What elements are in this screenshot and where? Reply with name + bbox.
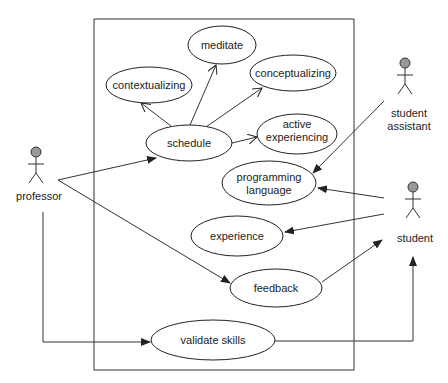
use-case-label: schedule: [167, 137, 211, 149]
use-case-label-line2: experiencing: [266, 131, 328, 143]
edge-feedback-student: [322, 240, 382, 282]
use-case-label: contextualizing: [113, 79, 186, 91]
actor-student[interactable]: student: [397, 182, 433, 244]
edge-schedule-conceptualizing: [206, 88, 262, 127]
edge-professor-validate: [43, 212, 150, 342]
use-case-schedule[interactable]: schedule: [146, 125, 232, 161]
use-case-label: validate skills: [181, 334, 246, 346]
actor-label: professor: [16, 190, 62, 202]
use-case-label-line1: programming: [237, 171, 302, 183]
edge-schedule-contextualizing: [141, 103, 171, 126]
use-case-conceptualizing[interactable]: conceptualizing: [250, 55, 336, 91]
edge-student-experience: [285, 214, 384, 232]
actor-label-line2: assistant: [387, 120, 430, 132]
use-case-label: meditate: [201, 39, 243, 51]
use-case-programming-language[interactable]: programming language: [222, 161, 316, 205]
edge-schedule-meditate: [190, 65, 216, 125]
actor-student-assistant[interactable]: student assistant: [387, 58, 430, 132]
stick-figure-icon: [397, 58, 413, 94]
actor-label: student: [397, 232, 433, 244]
use-case-diagram: meditate contextualizing conceptualizing…: [0, 0, 448, 383]
use-case-label: conceptualizing: [255, 67, 331, 79]
use-case-label-line2: language: [246, 184, 291, 196]
use-case-label: experience: [210, 230, 264, 242]
use-case-label: feedback: [254, 282, 299, 294]
use-case-feedback[interactable]: feedback: [230, 269, 322, 307]
use-case-meditate[interactable]: meditate: [188, 26, 256, 64]
actor-label-line1: student: [391, 107, 427, 119]
use-case-active-experiencing[interactable]: active experiencing: [257, 114, 337, 154]
use-case-label-line1: active: [283, 118, 312, 130]
stick-figure-icon: [405, 182, 421, 218]
edge-student-programming: [318, 188, 384, 198]
actor-professor[interactable]: professor: [16, 147, 62, 202]
use-case-validate-skills[interactable]: validate skills: [151, 320, 275, 360]
use-case-experience[interactable]: experience: [191, 216, 283, 256]
relations: [43, 65, 413, 342]
edge-professor-schedule: [58, 158, 156, 180]
stick-figure-icon: [28, 147, 44, 183]
use-case-contextualizing[interactable]: contextualizing: [106, 67, 192, 103]
